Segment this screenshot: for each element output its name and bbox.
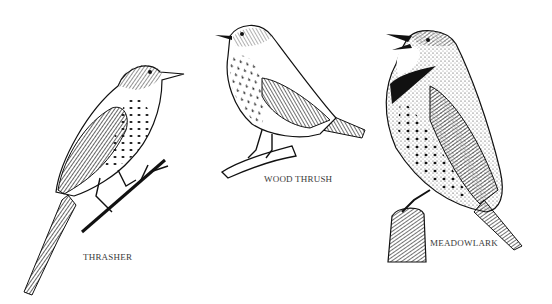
thrasher-drawing bbox=[0, 50, 200, 304]
wood-thrush-label: WOOD THRUSH bbox=[264, 174, 332, 184]
bird-illustration: THRASHER WOOD THRUSH bbox=[0, 0, 552, 304]
thrasher-label: THRASHER bbox=[83, 252, 132, 262]
meadowlark-label: MEADOWLARK bbox=[430, 238, 498, 248]
wood-thrush-drawing bbox=[210, 15, 370, 180]
